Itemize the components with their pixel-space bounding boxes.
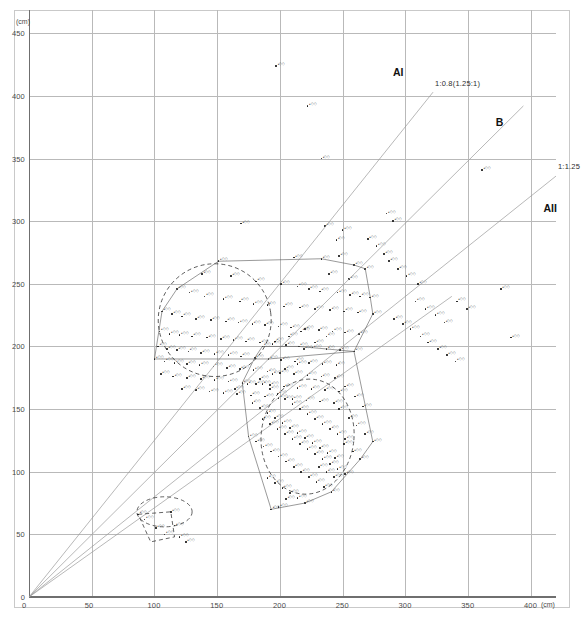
data-point-label: ●〇〇	[357, 395, 365, 398]
data-point-label: ●〇〇	[352, 293, 360, 296]
data-point-label: ●〇〇	[283, 358, 291, 361]
data-point-label: ●〇〇	[176, 361, 184, 364]
data-point-label: ●〇〇	[161, 329, 169, 332]
data-point-label: ●〇〇	[302, 407, 310, 410]
x-tick-350: 350	[461, 601, 474, 610]
data-point-label: ●〇〇	[305, 347, 313, 350]
data-point-label: ●〇〇	[271, 422, 279, 425]
gridline-v-350	[468, 10, 469, 597]
data-point-label: ●〇〇	[286, 397, 294, 400]
data-point-label: ●〇〇	[266, 395, 274, 398]
gridline-h-50	[29, 534, 556, 535]
data-point-label: ●〇〇	[284, 486, 292, 489]
data-point-label: ●〇〇	[334, 329, 342, 332]
data-point-label: ●〇〇	[290, 334, 298, 337]
data-point-label: ●〇〇	[225, 297, 233, 300]
data-point-label: ●〇〇	[285, 304, 293, 307]
data-point-label: ●〇〇	[269, 411, 277, 414]
data-point-label: ●〇〇	[279, 427, 287, 430]
data-point-label: ●〇〇	[347, 472, 355, 475]
data-point-label: ●〇〇	[512, 336, 520, 339]
data-point-label: ●〇〇	[229, 366, 237, 369]
data-point-label: ●〇〇	[313, 387, 321, 390]
data-point-label: ●〇〇	[318, 480, 326, 483]
data-point-label: ●〇〇	[309, 447, 317, 450]
data-point-label: ●〇〇	[332, 308, 340, 311]
data-point-label: ●〇〇	[324, 457, 332, 460]
data-point-label: ●〇〇	[309, 373, 317, 376]
data-point-label: ●〇〇	[362, 294, 370, 297]
data-point-label: ●〇〇	[179, 348, 187, 351]
data-point-label: ●〇〇	[332, 427, 340, 430]
data-point-label: ●〇〇	[254, 401, 262, 404]
y-tick-50: 50	[4, 530, 25, 539]
data-point-label: ●〇〇	[261, 406, 269, 409]
y-axis-unit-label: (cm)	[16, 18, 30, 25]
x-tick-200: 200	[273, 601, 286, 610]
data-point-label: ●〇〇	[307, 436, 315, 439]
gridline-h-0	[29, 597, 556, 598]
data-point-label: ●〇〇	[309, 412, 317, 415]
data-point-label: ●〇〇	[328, 334, 336, 337]
data-point-label: ●〇〇	[276, 339, 284, 342]
y-tick-150: 150	[4, 405, 25, 414]
data-point-label: ●〇〇	[314, 346, 322, 349]
data-point-label: ●〇〇	[430, 341, 438, 344]
y-tick-350: 350	[4, 155, 25, 164]
data-point-label: ●〇〇	[396, 317, 404, 320]
data-point-label: ●〇〇	[347, 437, 355, 440]
data-point-label: ●〇〇	[325, 485, 333, 488]
data-point-label: ●〇〇	[175, 375, 183, 378]
data-point-label: ●〇〇	[174, 312, 182, 315]
data-point-label: ●〇〇	[332, 462, 340, 465]
data-point-label: ●〇〇	[216, 378, 224, 381]
data-point-label: ●〇〇	[189, 362, 197, 365]
data-point-label: ●〇〇	[310, 475, 318, 478]
data-point-label: ●〇〇	[295, 372, 303, 375]
data-point-label: ●〇〇	[181, 333, 189, 336]
data-point-label: ●〇〇	[323, 157, 331, 160]
data-point-label: ●〇〇	[437, 313, 445, 316]
data-point-label: ●〇〇	[166, 359, 174, 362]
data-point-label: ●〇〇	[162, 372, 170, 375]
data-point-label: ●〇〇	[328, 470, 336, 473]
data-point-label: ●〇〇	[215, 364, 223, 367]
data-point-label: ●〇〇	[236, 387, 244, 390]
data-point-label: ●〇〇	[220, 259, 228, 262]
gridline-h-250	[29, 284, 556, 285]
y-tick-200: 200	[4, 342, 25, 351]
gridline-h-400	[29, 96, 556, 97]
data-point-label: ●〇〇	[291, 491, 299, 494]
data-point-label: ●〇〇	[327, 388, 335, 391]
data-point-label: ●〇〇	[324, 422, 332, 425]
data-point-label: ●〇〇	[160, 344, 168, 347]
y-tick-250: 250	[4, 280, 25, 289]
plot-area: ●〇〇●〇〇●〇〇●〇〇●〇〇●〇〇●〇〇●〇〇●〇〇●〇〇●〇〇●〇〇●〇〇●…	[29, 27, 556, 597]
data-point-label: ●〇〇	[427, 307, 435, 310]
data-point-label: ●〇〇	[281, 371, 289, 374]
data-point-label: ●〇〇	[235, 338, 243, 341]
ratio-label-line-a1: 1:0.8(1.25:1)	[435, 79, 480, 88]
data-point-label: ●〇〇	[320, 465, 328, 468]
data-point-label: ●〇〇	[323, 257, 331, 260]
data-point-label: ●〇〇	[448, 353, 456, 356]
data-point-label: ●〇〇	[502, 287, 510, 290]
data-point-label: ●〇〇	[339, 467, 347, 470]
data-point-label: ●〇〇	[468, 307, 476, 310]
data-point-label: ●〇〇	[440, 347, 448, 350]
data-point-label: ●〇〇	[302, 442, 310, 445]
gridline-h-300	[29, 221, 556, 222]
data-point-label: ●〇〇	[265, 445, 273, 448]
data-point-label: ●〇〇	[317, 452, 325, 455]
x-tick-150: 150	[210, 601, 223, 610]
data-point-label: ●〇〇	[350, 416, 358, 419]
data-point-label: ●〇〇	[187, 540, 195, 543]
data-point-label: ●〇〇	[181, 535, 189, 538]
data-point-label: ●〇〇	[329, 451, 337, 454]
x-tick-300: 300	[398, 601, 411, 610]
data-point-label: ●〇〇	[303, 329, 311, 332]
data-point-label: ●〇〇	[269, 476, 277, 479]
gridline-h-150	[29, 409, 556, 410]
data-point-label: ●〇〇	[354, 450, 362, 453]
data-point-label: ●〇〇	[258, 279, 266, 282]
